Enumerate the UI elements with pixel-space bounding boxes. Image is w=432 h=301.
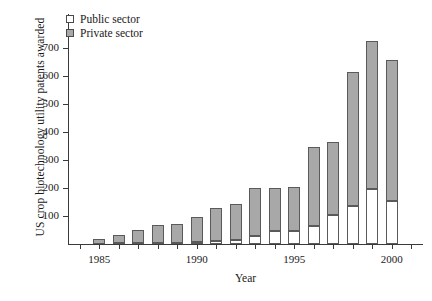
- bar: [171, 224, 183, 244]
- y-axis-tick: 400: [63, 132, 68, 133]
- x-axis-tick: [333, 244, 334, 249]
- legend-label: Private sector: [80, 26, 143, 40]
- x-axis-tick: [177, 244, 178, 249]
- bar-segment-private: [269, 188, 281, 231]
- x-axis-tick: [255, 244, 256, 249]
- x-axis-tick: [99, 244, 100, 249]
- x-axis-tick: [80, 244, 81, 249]
- x-axis-tick: [216, 244, 217, 249]
- bar-segment-public: [347, 206, 359, 244]
- y-axis-tick: 500: [63, 104, 68, 105]
- y-axis-tick: 200: [63, 188, 68, 189]
- bar: [93, 239, 105, 244]
- chart-legend: Public sectorPrivate sector: [66, 12, 143, 40]
- bar-segment-public: [249, 236, 261, 244]
- y-axis-tick-label: 200: [43, 181, 60, 194]
- bar-segment-public: [386, 201, 398, 244]
- bar-segment-private: [171, 224, 183, 243]
- y-axis-tick-label: 700: [43, 41, 60, 54]
- y-axis-tick-label: 300: [43, 153, 60, 166]
- bar-segment-private: [288, 187, 300, 231]
- legend-item: Public sector: [66, 12, 143, 26]
- y-axis-tick-label: 400: [43, 125, 60, 138]
- bar-segment-private: [132, 230, 144, 243]
- bar-segment-private: [327, 142, 339, 214]
- y-axis-tick: 300: [63, 160, 68, 161]
- bar-segment-private: [210, 208, 222, 241]
- bar-segment-public: [366, 189, 378, 244]
- plot-area: 100200300400500600700 1985199019952000 Y…: [68, 14, 423, 244]
- bar-segment-public: [288, 231, 300, 244]
- bar: [327, 142, 339, 244]
- bar-segment-private: [386, 60, 398, 200]
- bar: [152, 225, 164, 244]
- y-axis-tick-label: 600: [43, 69, 60, 82]
- bar-segment-private: [152, 225, 164, 243]
- x-axis-tick: [392, 244, 393, 249]
- x-axis-tick: [314, 244, 315, 249]
- x-axis-tick-label: 1995: [283, 253, 305, 265]
- legend-swatch-private: [66, 29, 74, 37]
- bar: [308, 147, 320, 244]
- bar-segment-private: [347, 72, 359, 206]
- x-axis-tick: [236, 244, 237, 249]
- bar-segment-public: [327, 215, 339, 244]
- x-axis-tick: [197, 244, 198, 249]
- bar: [366, 41, 378, 244]
- bar: [249, 188, 261, 244]
- x-axis-tick-label: 2000: [381, 253, 403, 265]
- x-axis-title: Year: [68, 272, 423, 284]
- bar-segment-private: [249, 188, 261, 235]
- x-axis-tick: [138, 244, 139, 249]
- y-axis-tick: 700: [63, 48, 68, 49]
- x-axis-tick: [411, 244, 412, 249]
- x-axis-tick: [353, 244, 354, 249]
- x-axis-tick: [294, 244, 295, 249]
- bar: [191, 217, 203, 244]
- bar-segment-public: [308, 226, 320, 244]
- x-axis-tick: [158, 244, 159, 249]
- y-axis-tick: 100: [63, 216, 68, 217]
- bar-segment-public: [230, 240, 242, 244]
- bar-segment-private: [366, 41, 378, 189]
- bar: [113, 235, 125, 244]
- bar-segment-private: [230, 204, 242, 239]
- bar-segment-private: [93, 239, 105, 244]
- bar: [269, 188, 281, 244]
- bar: [386, 60, 398, 244]
- bar: [347, 72, 359, 245]
- y-axis-line: [68, 14, 69, 244]
- bar-segment-public: [269, 231, 281, 244]
- y-axis-tick: 600: [63, 76, 68, 77]
- x-axis-tick-label: 1990: [186, 253, 208, 265]
- chart-figure: US crop biotechnology utility patents aw…: [0, 0, 432, 301]
- y-axis-tick-label: 100: [43, 209, 60, 222]
- legend-swatch-public: [66, 15, 74, 23]
- bar-segment-public: [210, 241, 222, 244]
- legend-label: Public sector: [80, 12, 140, 26]
- bar-segment-private: [191, 217, 203, 243]
- bar: [230, 204, 242, 244]
- bar: [132, 230, 144, 244]
- x-axis-line: [68, 244, 423, 245]
- x-axis-tick: [372, 244, 373, 249]
- bar-segment-private: [308, 147, 320, 226]
- y-axis-tick-label: 500: [43, 97, 60, 110]
- bar: [288, 187, 300, 245]
- x-axis-tick-label: 1985: [88, 253, 110, 265]
- x-axis-tick: [275, 244, 276, 249]
- bar: [210, 208, 222, 244]
- x-axis-tick: [119, 244, 120, 249]
- bar-segment-private: [113, 235, 125, 244]
- legend-item: Private sector: [66, 26, 143, 40]
